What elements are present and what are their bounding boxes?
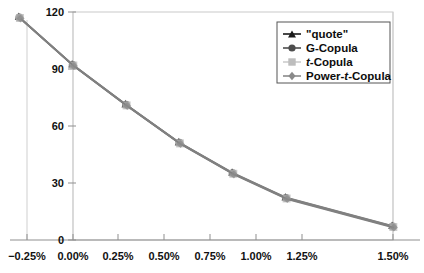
square-icon [288, 58, 295, 65]
x-tick-label-025: 0.25% [102, 250, 133, 262]
x-tick-label-125: 1.25% [286, 250, 317, 262]
legend-label-quote: "quote" [306, 28, 348, 40]
legend: "quote" G-Copula t-Copula Power-t-Copula [277, 22, 392, 83]
x-tick-label-100: 1.00% [240, 250, 271, 262]
y-tick-label-90: 90 [52, 63, 64, 75]
y-tick-label-120: 120 [46, 6, 64, 18]
y-tick-label-0: 0 [58, 234, 64, 246]
x-axis-ticks [27, 234, 393, 240]
legend-label-t-copula: t-Copula [306, 56, 353, 68]
legend-label-power-t-copula: Power-t-Copula [306, 70, 392, 82]
y-tick-label-60: 60 [52, 120, 64, 132]
x-tick-label-075: 0.75% [194, 250, 225, 262]
x-tick-label-000: 0.00% [57, 250, 88, 262]
chart-container: 120 90 60 30 0 −0.25% 0.00% 0.25% 0.50% … [0, 0, 424, 273]
legend-label-g-copula: G-Copula [306, 42, 358, 54]
y-axis-ticks [68, 12, 76, 240]
x-tick-label-050: 0.50% [148, 250, 179, 262]
x-tick-label-minus025: −0.25% [8, 250, 46, 262]
line-chart: 120 90 60 30 0 −0.25% 0.00% 0.25% 0.50% … [0, 0, 424, 273]
y-tick-label-30: 30 [52, 177, 64, 189]
x-tick-label-150: 1.50% [377, 250, 408, 262]
circle-icon [288, 44, 295, 51]
